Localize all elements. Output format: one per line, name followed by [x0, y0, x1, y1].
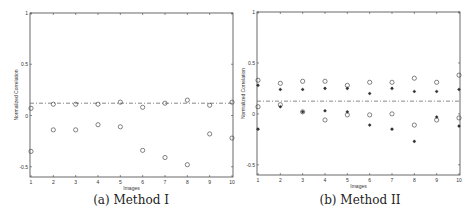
- x-tick-label: 7: [391, 177, 394, 183]
- circle-marker: [412, 123, 416, 127]
- scatter-plot-method-2: 12345678910-0.500.51ImagesNormalized Cor…: [0, 0, 475, 216]
- x-axis-label: Images: [350, 183, 367, 189]
- star-marker: [413, 90, 417, 94]
- circle-marker: [256, 105, 260, 109]
- circle-marker: [323, 79, 327, 83]
- series-stars-lower: [256, 105, 461, 143]
- x-tick-label: 5: [346, 177, 349, 183]
- star-marker: [413, 140, 417, 144]
- x-tick-label: 3: [301, 177, 304, 183]
- y-tick-label: 1: [252, 9, 255, 15]
- circle-marker: [390, 112, 394, 116]
- star-marker: [301, 88, 305, 92]
- x-tick-label: 1: [257, 177, 260, 183]
- circle-marker: [390, 80, 394, 84]
- circle-marker: [323, 118, 327, 122]
- star-marker: [279, 105, 283, 109]
- star-marker: [323, 87, 327, 91]
- x-tick-label: 10: [456, 177, 462, 183]
- star-marker: [435, 90, 439, 94]
- circle-marker: [435, 80, 439, 84]
- star-marker: [301, 110, 305, 114]
- x-tick-label: 2: [279, 177, 282, 183]
- plot-frame: [257, 12, 460, 175]
- star-marker: [390, 87, 394, 91]
- x-tick-label: 8: [413, 177, 416, 183]
- y-tick-label: -0.5: [246, 162, 255, 168]
- circle-marker: [301, 79, 305, 83]
- circle-marker: [278, 81, 282, 85]
- circle-marker: [368, 113, 372, 117]
- circle-marker: [368, 80, 372, 84]
- y-axis-label: Normalized Correlation: [240, 68, 246, 119]
- y-tick-label: 0: [252, 111, 255, 117]
- panel-method-2: 12345678910-0.500.51ImagesNormalized Cor…: [0, 0, 475, 216]
- star-marker: [368, 123, 372, 127]
- circle-marker: [457, 116, 461, 120]
- circle-marker: [256, 78, 260, 82]
- circle-marker: [412, 76, 416, 80]
- series-circles-lower: [256, 103, 461, 128]
- x-tick-label: 9: [435, 177, 438, 183]
- star-marker: [323, 109, 327, 113]
- x-tick-label: 4: [324, 177, 327, 183]
- star-marker: [368, 92, 372, 96]
- y-tick-label: 0.5: [248, 60, 255, 66]
- circle-marker: [457, 73, 461, 77]
- star-marker: [279, 88, 283, 92]
- series-circles-upper: [256, 73, 461, 87]
- caption-method-2: (b) Method II: [320, 193, 401, 207]
- series-stars-upper: [256, 84, 461, 96]
- x-tick-label: 6: [368, 177, 371, 183]
- star-marker: [390, 127, 394, 131]
